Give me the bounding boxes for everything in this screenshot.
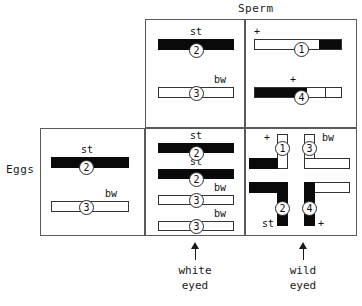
- caption-white-eyed-line1: white: [155, 263, 235, 278]
- chromosome-1-horizontal-arm: [249, 158, 278, 169]
- sperm-column-title: Sperm: [238, 2, 274, 15]
- cell-sperm-mutant: st 2 bw 3: [145, 19, 245, 128]
- centromere-marker-2: 2: [189, 43, 204, 58]
- genetics-punnett-diagram: Sperm Eggs st 2 bw 3 + 1 + 4 st 2 bw: [0, 0, 362, 306]
- arrow-stem-wild-eyed: [303, 248, 304, 260]
- chromosome-3-horizontal-arm: [304, 158, 350, 169]
- cell-sperm-wildtype: + 1 + 4: [245, 19, 357, 128]
- allele-label-st-egg: st: [81, 144, 93, 155]
- allele-label-bw-egg: bw: [105, 188, 117, 199]
- allele-label-plus-bent-1: +: [264, 132, 270, 143]
- allele-label-plus-bent-4: +: [318, 218, 324, 229]
- centromere-marker-bent-3: 3: [302, 141, 317, 156]
- caption-white-eyed-line2: eyed: [155, 278, 235, 293]
- centromere-marker-3-a: 3: [189, 193, 204, 208]
- centromere-marker-2-a: 2: [189, 146, 204, 161]
- caption-wild-eyed: wild eyed: [273, 263, 333, 293]
- allele-label-st-bent: st: [262, 218, 274, 229]
- allele-label-bw-bent: bw: [322, 132, 334, 143]
- centromere-marker-bent-4: 4: [302, 201, 317, 216]
- centromere-marker-3-b: 3: [189, 219, 204, 234]
- centromere-marker-3: 3: [189, 86, 204, 101]
- arrow-stem-white-eyed: [195, 248, 196, 260]
- caption-wild-eyed-line2: eyed: [273, 278, 333, 293]
- chromosome-1-dark-segment: [319, 40, 341, 49]
- allele-label-st-1: st: [190, 130, 202, 141]
- centromere-marker-bent-2: 2: [275, 201, 290, 216]
- allele-label-st: st: [190, 26, 202, 37]
- centromere-marker-bent-1: 1: [275, 141, 290, 156]
- allele-label-bw: bw: [214, 74, 226, 85]
- cell-wild-eyed-zygote: + 1 bw 3 2 st 4 +: [245, 128, 357, 236]
- centromere-marker-2-b: 2: [189, 172, 204, 187]
- caption-wild-eyed-line1: wild: [273, 263, 333, 278]
- centromere-marker-3-egg: 3: [79, 200, 94, 215]
- allele-label-plus-4: +: [290, 74, 296, 85]
- chromosome-4-band-divider: [325, 88, 326, 97]
- cell-egg-mutant: st 2 bw 3: [40, 128, 145, 236]
- allele-label-bw-1: bw: [214, 182, 226, 193]
- allele-label-bw-2: bw: [214, 208, 226, 219]
- eggs-row-title: Eggs: [6, 163, 35, 176]
- allele-label-plus-1: +: [254, 26, 260, 37]
- caption-white-eyed: white eyed: [155, 263, 235, 293]
- centromere-marker-4: 4: [294, 90, 309, 105]
- centromere-marker-1: 1: [294, 42, 309, 57]
- centromere-marker-2-egg: 2: [79, 160, 94, 175]
- cell-white-eyed-zygote: st 2 st 2 bw 3 bw 3: [145, 128, 245, 236]
